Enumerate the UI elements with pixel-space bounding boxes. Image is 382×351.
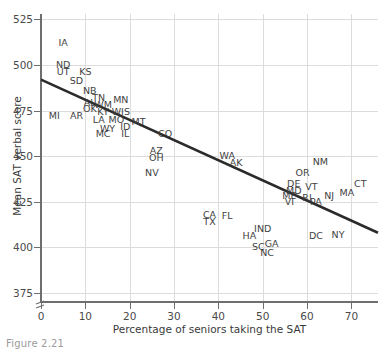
data-point-label: TX — [203, 217, 215, 227]
gridline-horizontal — [41, 65, 378, 66]
y-axis-line — [40, 14, 42, 302]
gridline-horizontal — [41, 19, 378, 20]
data-point-label: DC — [309, 232, 323, 242]
gridline-horizontal — [41, 247, 378, 248]
y-axis-tick-label: 525 — [0, 14, 33, 25]
x-axis-tick-label: 40 — [203, 311, 233, 322]
x-axis-tick — [130, 303, 131, 309]
data-point-label: HA — [243, 232, 257, 242]
data-point-label: MI — [49, 111, 60, 121]
data-point-label: OR — [296, 168, 310, 178]
x-axis-tick — [263, 303, 264, 309]
y-axis-tick-label: 375 — [0, 288, 33, 299]
y-axis-tick-label: 400 — [0, 242, 33, 253]
gridline-vertical — [174, 14, 175, 302]
x-axis-line — [40, 301, 378, 303]
gridline-horizontal — [41, 202, 378, 203]
data-point-label: NM — [313, 157, 328, 167]
data-point-label: FL — [222, 212, 233, 222]
x-axis-tick — [41, 303, 42, 309]
data-point-label: NY — [332, 230, 345, 240]
data-point-label: NV — [145, 168, 159, 178]
gridline-horizontal — [41, 293, 378, 294]
y-axis-tick — [34, 19, 41, 20]
x-axis-tick — [174, 303, 175, 309]
x-axis-tick-label: 70 — [336, 311, 366, 322]
x-axis-tick-label: 60 — [292, 311, 322, 322]
data-point-label: CO — [158, 130, 172, 140]
x-axis-tick — [351, 303, 352, 309]
data-point-label: VT — [305, 182, 317, 192]
data-point-label: OK — [83, 104, 97, 114]
gridline-vertical — [263, 14, 264, 302]
y-axis-tick — [34, 247, 41, 248]
data-point-label: MN — [113, 95, 128, 105]
data-point-label: AR — [70, 111, 83, 121]
y-axis-tick-label: 425 — [0, 197, 33, 208]
x-axis-tick — [85, 303, 86, 309]
gridline-vertical — [351, 14, 352, 302]
gridline-vertical — [307, 14, 308, 302]
gridline-vertical — [130, 14, 131, 302]
figure-scatter-sat: Percentage of seniors taking the SAT Mea… — [0, 0, 382, 351]
data-point-label: IL — [121, 130, 129, 140]
y-axis-tick — [34, 293, 41, 294]
x-axis-tick-label: 50 — [248, 311, 278, 322]
x-axis-tick-label: 20 — [115, 311, 145, 322]
data-point-label: VI — [285, 197, 294, 207]
y-axis-tick — [34, 156, 41, 157]
x-axis-tick-label: 30 — [159, 311, 189, 322]
y-axis-tick-label: 450 — [0, 151, 33, 162]
x-axis-tick-label: 0 — [26, 311, 56, 322]
y-axis-tick — [34, 65, 41, 66]
x-axis-title: Percentage of seniors taking the SAT — [41, 323, 378, 335]
y-axis-tick — [34, 202, 41, 203]
figure-caption: Figure 2.21 — [6, 338, 64, 349]
y-axis-tick-label: 475 — [0, 106, 33, 117]
data-point-label: NC — [260, 248, 274, 258]
x-axis-tick — [218, 303, 219, 309]
data-point-label: PA — [310, 197, 322, 207]
data-point-label: MT — [132, 117, 146, 127]
y-axis-tick-label: 500 — [0, 60, 33, 71]
data-point-label: UT — [57, 68, 70, 78]
data-point-label: SD — [70, 77, 83, 87]
data-point-label: MA — [340, 188, 355, 198]
data-point-label: IA — [59, 38, 68, 48]
x-axis-tick — [307, 303, 308, 309]
y-axis-tick — [34, 111, 41, 112]
data-point-label: CT — [354, 179, 366, 189]
data-point-label: NJ — [324, 192, 334, 202]
data-point-label: IND — [254, 224, 271, 234]
data-point-label: OH — [149, 153, 164, 163]
data-point-label: AK — [230, 159, 243, 169]
gridline-vertical — [85, 14, 86, 302]
x-axis-tick-label: 10 — [70, 311, 100, 322]
data-point-label: MC — [96, 130, 111, 140]
